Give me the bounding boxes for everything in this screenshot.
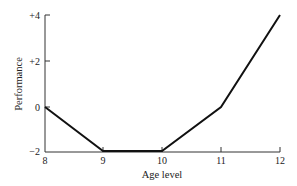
y-tick-label: −2 <box>29 146 40 157</box>
x-axis-title: Age level <box>142 169 183 180</box>
y-axis <box>45 15 50 152</box>
y-tick-label: +2 <box>29 56 40 67</box>
x-tick-label: 11 <box>216 155 226 166</box>
performance-line <box>45 15 280 151</box>
x-tick-label: 12 <box>275 155 285 166</box>
x-tick-label: 9 <box>101 155 106 166</box>
line-chart: +4 +2 0 −2 8 9 10 11 12 Age level Perfor… <box>0 0 297 186</box>
y-tick-label: +4 <box>29 10 40 21</box>
x-tick-label: 8 <box>43 155 48 166</box>
y-axis-title: Performance <box>13 57 24 111</box>
y-tick-label: 0 <box>35 102 40 113</box>
x-tick-label: 10 <box>157 155 167 166</box>
